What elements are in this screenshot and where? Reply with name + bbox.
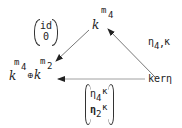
direct-sum-operator: ⊕ (27, 71, 34, 80)
matrix-entry-id: id (40, 20, 52, 31)
label-right-to-left: η 4 κ η 2 κ (85, 84, 113, 124)
matrix-entry-zero: 0 (43, 31, 49, 42)
matrix-row2-kappa: κ (102, 102, 107, 112)
node-left-exp2: m (40, 56, 45, 66)
node-top-exp-sub: 4 (108, 10, 113, 20)
node-left-base2: k (34, 68, 41, 82)
arrow-top-to-left (56, 30, 89, 61)
node-left-exp2-sub: 2 (47, 61, 52, 71)
label-kappa: κ (164, 36, 170, 47)
right-paren (108, 84, 114, 125)
matrix-row1-kappa: κ (102, 86, 107, 96)
node-top-base: k (92, 18, 99, 32)
node-left-exp1-sub: 4 (21, 62, 26, 72)
matrix-row1-sub: 4 (96, 93, 101, 103)
node-right: kerη (148, 73, 172, 84)
node-top-exp: m (101, 5, 106, 15)
matrix-row2-sub: 2 (96, 109, 101, 119)
node-left: k m 4 ⊕ k m 2 (9, 55, 59, 83)
node-left-exp1: m (14, 57, 19, 67)
node-left-base1: k (9, 69, 16, 83)
label-top-to-left: id 0 (34, 19, 56, 45)
